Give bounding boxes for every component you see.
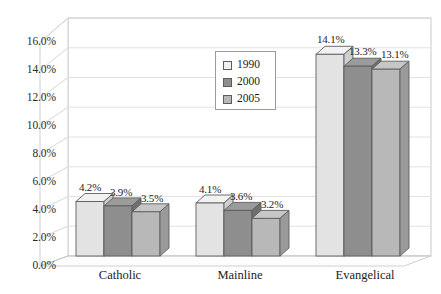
- y-axis-tick-10: 10.0%: [0, 119, 56, 131]
- bar-catholic-2005: [132, 204, 169, 256]
- value-label-mainline-2005: 3.2%: [261, 198, 283, 210]
- bar-mainline-2005: [252, 210, 289, 256]
- value-label-catholic-2005: 3.5%: [141, 192, 163, 204]
- legend-swatch-icon-1990: [223, 61, 232, 70]
- legend-label-1990: 1990: [237, 59, 260, 71]
- y-axis-tick-6: 6.0%: [0, 175, 56, 187]
- y-axis-tick-16: 16.0%: [0, 35, 56, 47]
- legend-label-2005: 2005: [237, 93, 260, 105]
- y-axis-tick-12: 12.0%: [0, 91, 56, 103]
- legend-swatch-icon-2005: [223, 95, 232, 104]
- legend-label-2000: 2000: [237, 76, 260, 88]
- value-label-catholic-1990: 4.2%: [79, 181, 101, 193]
- y-axis-tick-14: 14.0%: [0, 63, 56, 75]
- legend-item-2005[interactable]: 2005: [223, 91, 260, 107]
- x-axis-label-catholic: Catholic: [60, 268, 180, 283]
- value-label-evangelical-2005: 13.1%: [381, 48, 408, 60]
- y-axis-tick-8: 8.0%: [0, 147, 56, 159]
- value-label-mainline-2000: 3.6%: [230, 190, 252, 202]
- value-label-catholic-2000: 3.9%: [110, 186, 132, 198]
- value-label-evangelical-2000: 13.3%: [349, 45, 376, 57]
- x-axis-label-evangelical: Evangelical: [300, 268, 430, 283]
- plot-floor: [40, 256, 431, 266]
- chart-legend: 1990 2000 2005: [215, 51, 276, 110]
- legend-item-1990[interactable]: 1990: [223, 57, 260, 73]
- value-label-evangelical-1990: 14.1%: [317, 33, 344, 45]
- y-axis-tick-2: 2.0%: [0, 231, 56, 243]
- bar-evangelical-2005: [372, 61, 409, 256]
- y-axis-tick-0: 0.0%: [0, 259, 56, 271]
- value-label-mainline-1990: 4.1%: [199, 183, 221, 195]
- x-axis-label-mainline: Mainline: [180, 268, 300, 283]
- y-axis-tick-4: 4.0%: [0, 203, 56, 215]
- bar-chart: 16.0% 14.0% 12.0% 10.0% 8.0% 6.0% 4.0% 2…: [0, 0, 441, 294]
- legend-swatch-icon-2000: [223, 78, 232, 87]
- legend-item-2000[interactable]: 2000: [223, 74, 260, 90]
- plot-left-wall: [40, 18, 68, 266]
